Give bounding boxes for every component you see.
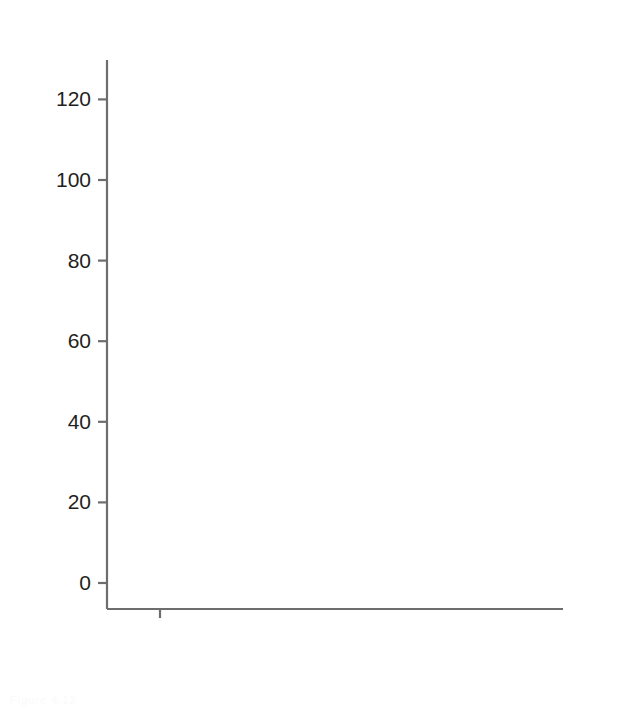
caption-fragment: Figure 4.12	[10, 694, 77, 706]
boxplot-figure: 020406080100120	[0, 0, 634, 711]
y-tick-label-100: 100	[56, 168, 91, 191]
y-tick-label-20: 20	[68, 490, 91, 513]
boxplot-canvas: 020406080100120	[0, 0, 634, 711]
y-tick-label-120: 120	[56, 87, 91, 110]
y-tick-label-80: 80	[68, 249, 91, 272]
y-tick-label-40: 40	[68, 410, 91, 433]
y-tick-label-0: 0	[79, 571, 91, 594]
y-tick-label-60: 60	[68, 329, 91, 352]
